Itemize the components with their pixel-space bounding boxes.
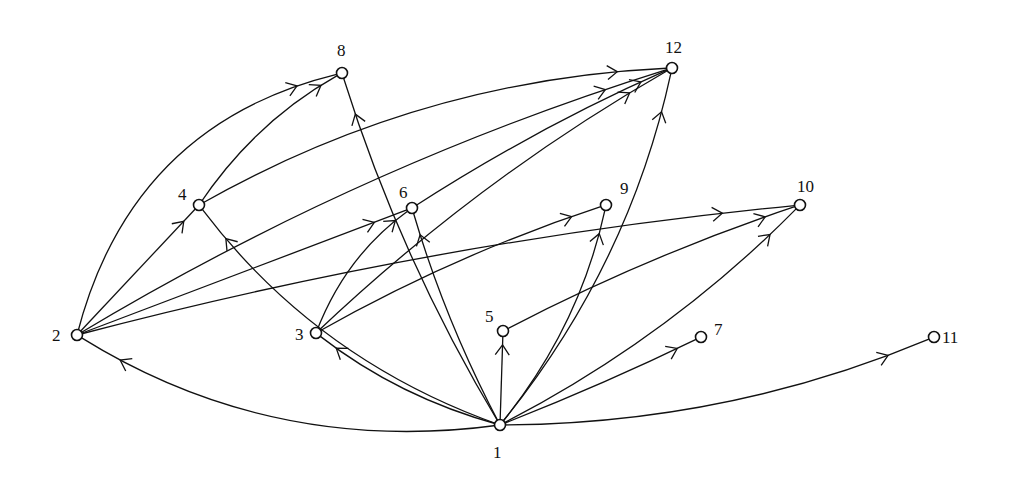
edge-2-to-6 <box>77 210 407 335</box>
node-1 <box>495 420 506 431</box>
nodes-layer <box>72 63 940 431</box>
edge-1-to-10 <box>500 209 796 425</box>
node-3 <box>311 328 322 339</box>
edge-1-to-4 <box>202 209 500 425</box>
edge-1-to-12 <box>500 73 671 425</box>
edge-3-to-12 <box>316 71 667 333</box>
edge-1-to-5 <box>500 336 503 425</box>
node-label-7: 7 <box>714 320 723 339</box>
edge-3-to-6 <box>316 211 408 333</box>
edge-2-to-4 <box>77 209 195 335</box>
edge-1-to-3 <box>320 336 500 425</box>
node-label-12: 12 <box>665 38 682 57</box>
node-10 <box>795 200 806 211</box>
node-label-5: 5 <box>485 307 494 326</box>
node-label-2: 2 <box>52 326 61 345</box>
node-label-3: 3 <box>295 325 304 344</box>
edge-1-to-2 <box>82 338 500 432</box>
node-5 <box>498 326 509 337</box>
node-label-6: 6 <box>399 183 408 202</box>
node-9 <box>601 200 612 211</box>
edge-2-to-8 <box>77 74 337 335</box>
node-11 <box>929 332 940 343</box>
labels-layer: 123456789101112 <box>52 38 958 462</box>
node-label-8: 8 <box>337 41 346 60</box>
edge-6-to-12 <box>412 70 667 208</box>
edge-4-to-12 <box>199 68 667 205</box>
node-7 <box>696 332 707 343</box>
node-label-1: 1 <box>493 443 502 462</box>
edge-2-to-10 <box>77 206 795 335</box>
node-label-4: 4 <box>178 185 187 204</box>
node-label-9: 9 <box>620 179 629 198</box>
directed-graph: 123456789101112 <box>0 0 1013 486</box>
node-6 <box>407 203 418 214</box>
node-4 <box>194 200 205 211</box>
edge-1-to-11 <box>500 339 929 425</box>
node-label-10: 10 <box>797 177 814 196</box>
edges-layer <box>77 66 929 432</box>
edge-1-to-8 <box>344 78 500 425</box>
node-8 <box>337 68 348 79</box>
node-2 <box>72 330 83 341</box>
edge-1-to-9 <box>500 210 605 425</box>
node-12 <box>667 63 678 74</box>
node-label-11: 11 <box>942 328 958 347</box>
